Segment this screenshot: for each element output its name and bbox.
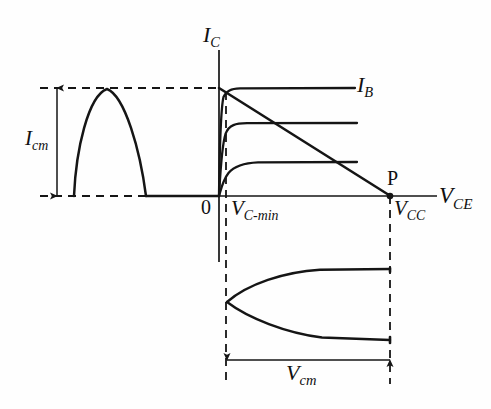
collector-current-pulse-waveform	[74, 89, 219, 196]
curve-ib-bottom	[219, 162, 357, 196]
supply-voltage-label-sub: CC	[407, 208, 426, 223]
voltage-swing-label-base: V	[286, 360, 299, 385]
supply-voltage-label: VCC	[394, 198, 425, 223]
saturation-voltage-label: VC-min	[231, 198, 278, 223]
supply-voltage-label-base: V	[394, 196, 407, 220]
voltage-swing-label-sub: cm	[299, 372, 316, 388]
current-swing-label-sub: cm	[32, 138, 48, 153]
x-axis-label: VCE	[439, 184, 472, 211]
dc-load-line	[219, 88, 391, 196]
construction-lines-group	[40, 88, 390, 384]
current-swing-label-base: I	[25, 126, 32, 150]
output-voltage-swing-envelope	[227, 268, 390, 343]
curve-ib-middle	[219, 123, 357, 196]
operating-point-dot	[387, 193, 394, 200]
voltage-swing-label: Vcm	[286, 362, 316, 388]
origin-label: 0	[201, 197, 211, 217]
operating-point-label: P	[387, 168, 398, 188]
curve-ib-top	[219, 88, 355, 196]
base-current-curve-label: IB	[357, 74, 373, 100]
transistor-characteristics-figure: IC IB Icm 0 VC-min P VCC VCE Vcm	[0, 0, 491, 409]
output-characteristic-curves	[219, 88, 357, 196]
y-axis-label: IC	[203, 24, 220, 50]
saturation-voltage-label-base: V	[231, 196, 244, 220]
x-axis-label-base: V	[439, 183, 453, 208]
x-axis-label-sub: CE	[453, 195, 472, 212]
current-swing-label: Icm	[25, 128, 48, 153]
saturation-voltage-label-sub: C-min	[244, 208, 279, 223]
envelope-upper-arc	[227, 269, 390, 302]
base-current-label-sub: B	[364, 84, 373, 100]
y-axis-label-sub: C	[210, 34, 220, 50]
pulse-half-sine	[74, 89, 146, 196]
envelope-lower-arc	[227, 302, 390, 340]
